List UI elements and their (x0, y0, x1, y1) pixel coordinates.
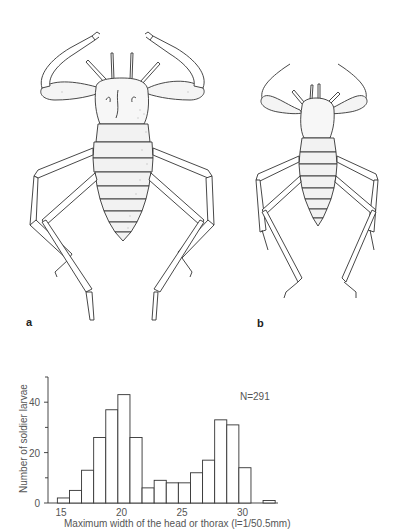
histogram-bar (106, 410, 118, 503)
y-tick-label: 0 (34, 498, 40, 509)
histogram-bar (178, 483, 190, 503)
histogram-bar (142, 488, 154, 503)
histogram-bar (215, 420, 227, 503)
histogram-bar (94, 437, 106, 503)
x-tick-label: 15 (55, 507, 67, 518)
histogram-bar (82, 470, 94, 503)
histogram-bar (118, 395, 130, 503)
larva-illustration-a (0, 0, 220, 340)
histogram-bar (130, 437, 142, 503)
histogram-bar (154, 480, 166, 503)
histogram-bar (166, 483, 178, 503)
x-tick-label: 25 (176, 507, 188, 518)
x-axis-ticks: 15202530 (55, 507, 248, 518)
y-tick-label: 20 (29, 448, 41, 459)
sample-size-annotation: N=291 (240, 391, 270, 402)
x-tick-label: 20 (116, 507, 128, 518)
y-axis-title: Number of soldier larvae (18, 384, 29, 493)
histogram-bars (57, 395, 275, 503)
histogram-bar (69, 490, 81, 503)
histogram-bar (239, 468, 251, 503)
y-tick-label: 40 (29, 397, 41, 408)
panel-label-a: a (26, 316, 32, 328)
histogram-bar (203, 460, 215, 503)
histogram-bar (190, 473, 202, 503)
histogram-chart: 02040 15202530 N=291 Maximum width of th… (0, 340, 397, 531)
panel-label-b: b (257, 317, 264, 329)
histogram-bar (263, 500, 275, 503)
histogram-bar (227, 425, 239, 503)
histogram-bar (57, 498, 69, 503)
y-axis-ticks: 02040 (29, 377, 48, 509)
larva-illustration-b (200, 60, 390, 340)
x-tick-label: 30 (237, 507, 249, 518)
x-axis-title: Maximum width of the head or thorax (l=1… (64, 518, 290, 529)
